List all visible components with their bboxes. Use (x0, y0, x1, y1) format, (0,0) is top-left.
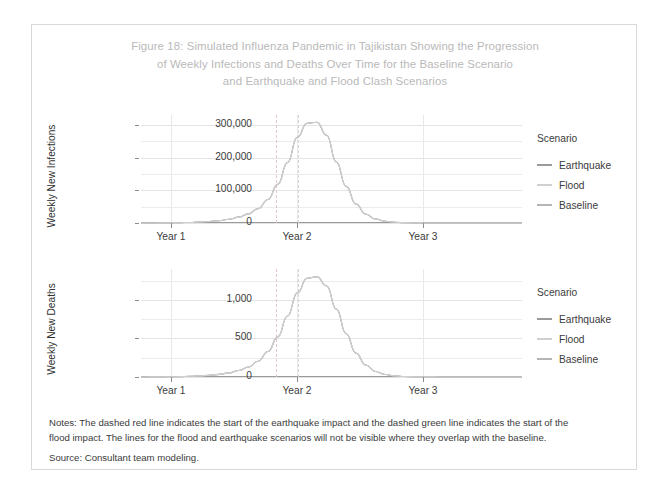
x-axis-tick-mark (423, 377, 424, 382)
y-axis-tick-label: 500 (182, 331, 252, 342)
series-line-baseline (141, 277, 522, 377)
series-line-flood (141, 122, 522, 223)
chart-panel-deaths: Weekly New Deaths Scenario Earthquake Fl… (32, 261, 638, 408)
y-axis-title-deaths: Weekly New Deaths (46, 273, 60, 385)
legend-swatch-icon-earthquake (537, 318, 552, 320)
legend-label-baseline: Baseline (559, 200, 598, 211)
legend-label-baseline: Baseline (559, 354, 598, 365)
notes-line-1: Notes: The dashed red line indicates the… (49, 415, 625, 430)
legend-infections: Scenario Earthquake Flood Baseline (537, 133, 637, 215)
x-axis-tick-mark (297, 377, 298, 382)
y-axis-tick-mark (135, 377, 139, 378)
figure-title-line-3: and Earthquake and Flood Clash Scenarios (32, 73, 638, 91)
legend-swatch-icon-flood (537, 338, 552, 340)
legend-item-flood[interactable]: Flood (537, 329, 637, 349)
y-axis-tick-mark (135, 158, 139, 159)
y-axis-tick-mark (135, 338, 139, 339)
legend-title: Scenario (537, 287, 637, 298)
plot-area-deaths (141, 269, 522, 377)
legend-item-earthquake[interactable]: Earthquake (537, 309, 637, 329)
legend-swatch-icon-flood (537, 184, 552, 186)
x-axis-tick-mark (171, 223, 172, 228)
legend-swatch-icon-earthquake (537, 164, 552, 166)
x-axis-tick-mark (171, 377, 172, 382)
x-axis-tick-label: Year 1 (136, 385, 206, 396)
x-axis-tick-mark (423, 223, 424, 228)
y-axis-tick-mark (135, 300, 139, 301)
figure-title-line-2: of Weekly Infections and Deaths Over Tim… (32, 56, 638, 74)
y-axis-tick-label: 300,000 (182, 118, 252, 129)
series-line-earthquake (141, 122, 522, 223)
x-axis-tick-label: Year 3 (388, 231, 458, 242)
legend-swatch-icon-baseline (537, 358, 552, 360)
x-axis-tick-label: Year 1 (136, 231, 206, 242)
y-axis-tick-label: 0 (182, 216, 252, 227)
plot-area-infections (141, 115, 522, 223)
y-axis-tick-label: 100,000 (182, 183, 252, 194)
x-axis-tick-label: Year 2 (262, 231, 332, 242)
legend-label-flood: Flood (559, 180, 584, 191)
legend-label-earthquake: Earthquake (559, 314, 611, 325)
y-axis-tick-label: 200,000 (182, 151, 252, 162)
y-axis-tick-label: 0 (182, 370, 252, 381)
series-line-baseline (141, 122, 522, 223)
legend-item-earthquake[interactable]: Earthquake (537, 155, 637, 175)
legend-label-earthquake: Earthquake (559, 160, 611, 171)
y-axis-tick-mark (135, 190, 139, 191)
figure-title: Figure 18: Simulated Influenza Pandemic … (32, 38, 638, 91)
legend-deaths: Scenario Earthquake Flood Baseline (537, 287, 637, 369)
series-curves (141, 269, 522, 377)
legend-item-flood[interactable]: Flood (537, 175, 637, 195)
legend-item-baseline[interactable]: Baseline (537, 195, 637, 215)
source-text: Source: Consultant team modeling. (49, 450, 625, 465)
y-axis-tick-label: 1,000 (182, 293, 252, 304)
legend-item-baseline[interactable]: Baseline (537, 349, 637, 369)
figure-footer: Notes: The dashed red line indicates the… (49, 415, 625, 466)
x-axis-tick-label: Year 2 (262, 385, 332, 396)
figure-title-line-1: Figure 18: Simulated Influenza Pandemic … (32, 38, 638, 56)
figure-container: Figure 18: Simulated Influenza Pandemic … (31, 24, 637, 470)
chart-panel-infections: Weekly New Infections Scenario Earthquak… (32, 107, 638, 254)
y-axis-tick-mark (135, 125, 139, 126)
series-line-flood (141, 277, 522, 377)
legend-swatch-icon-baseline (537, 204, 552, 206)
notes-line-2: flood impact. The lines for the flood an… (49, 430, 625, 445)
series-line-earthquake (141, 277, 522, 377)
legend-label-flood: Flood (559, 334, 584, 345)
y-axis-title-infections: Weekly New Infections (46, 120, 60, 232)
y-axis-tick-mark (135, 223, 139, 224)
x-axis-tick-mark (297, 223, 298, 228)
series-curves (141, 115, 522, 223)
legend-title: Scenario (537, 133, 637, 144)
x-axis-tick-label: Year 3 (388, 385, 458, 396)
